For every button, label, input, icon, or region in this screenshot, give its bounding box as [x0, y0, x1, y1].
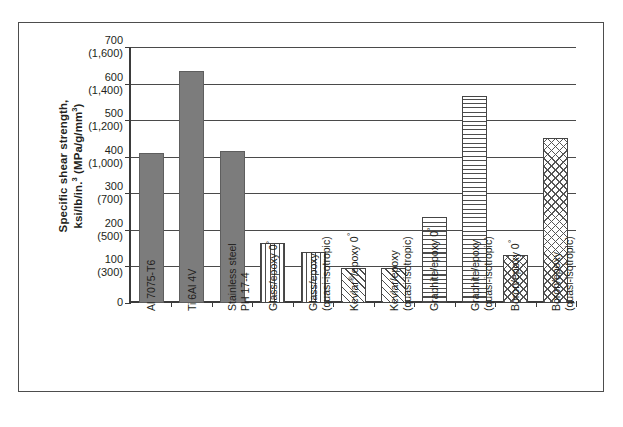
- x-axis-label-line: Kevlar/epoxy: [388, 236, 401, 311]
- x-axis-label-line: Ti 6Al 4V: [186, 269, 199, 311]
- y-tick-label-300: 300(700): [28, 180, 123, 206]
- y-tick-primary: 0: [28, 296, 123, 309]
- x-axis-label: Ti 6Al 4V: [186, 269, 199, 311]
- x-axis-label: Glass/epoxy 0°: [267, 241, 280, 311]
- x-axis-label: Kevlar/epoxy(quasi-isotropic): [388, 236, 414, 311]
- y-tick-label-400: 400(1,000): [28, 144, 123, 170]
- y-tick-label-500: 500(1,200): [28, 107, 123, 133]
- x-axis-label-line: (quasi-isotropic): [563, 236, 576, 311]
- y-tick-0: [125, 303, 131, 304]
- y-tick-primary: 500: [28, 107, 123, 120]
- y-tick-secondary: (1,400): [28, 84, 123, 97]
- x-axis-label-line: Glass/epoxy: [307, 236, 320, 311]
- y-tick-secondary: (1,000): [28, 157, 123, 170]
- x-axis-label-line: Graphite/epoxy: [469, 236, 482, 311]
- y-tick-label-600: 600(1,400): [28, 71, 123, 97]
- y-tick-secondary: (500): [28, 230, 123, 243]
- x-axis-label-line: PH 17-4: [239, 243, 252, 311]
- y-tick-label-0: 0: [28, 296, 123, 309]
- x-axis-label: Graphite/epoxy 0°: [428, 227, 441, 311]
- y-tick-primary: 600: [28, 71, 123, 84]
- caption-strip: [40, 409, 585, 421]
- y-tick-secondary: (1,600): [28, 47, 123, 60]
- x-axis-label: Boron/epoxy 0°: [509, 240, 522, 311]
- x-tick: [414, 301, 415, 307]
- y-tick-secondary: (1,200): [28, 120, 123, 133]
- x-axis-label-line: Glass/epoxy 0°: [267, 241, 280, 311]
- y-tick-primary: 100: [28, 253, 123, 266]
- x-tick: [212, 301, 213, 307]
- x-axis-label: Al 7075-T6: [145, 260, 158, 311]
- x-axis-label: Stainless steelPH 17-4: [226, 243, 252, 311]
- x-tick: [576, 301, 577, 307]
- y-tick-primary: 200: [28, 217, 123, 230]
- x-axis-label-line: (quasi-isotropic): [320, 236, 333, 311]
- x-tick: [495, 301, 496, 307]
- x-axis-label-line: Kevlar®/epoxy 0°: [348, 233, 361, 311]
- y-tick-primary: 300: [28, 180, 123, 193]
- figure-frame: Specific shear strength, ksi/lb/in.3 (MP…: [18, 22, 604, 392]
- x-tick: [293, 301, 294, 307]
- x-axis-label-line: Stainless steel: [226, 243, 239, 311]
- y-tick-secondary: (700): [28, 193, 123, 206]
- x-axis-label: Boron/epoxy(quasi-isotropic): [550, 236, 576, 311]
- x-tick: [536, 301, 537, 307]
- x-axis-label: Graphite/epoxy(quasi-isotropic): [469, 236, 495, 311]
- x-tick: [455, 301, 456, 307]
- x-axis-label-line: (quasi-isotropic): [482, 236, 495, 311]
- x-tick: [333, 301, 334, 307]
- y-tick-label-200: 200(500): [28, 217, 123, 243]
- x-tick: [171, 301, 172, 307]
- x-tick: [374, 301, 375, 307]
- y-tick-primary: 700: [28, 34, 123, 47]
- x-axis-label-line: Boron/epoxy 0°: [509, 240, 522, 311]
- x-axis-label-line: Graphite/epoxy 0°: [428, 227, 441, 311]
- y-tick-primary: 400: [28, 144, 123, 157]
- x-axis-label-line: (quasi-isotropic): [401, 236, 414, 311]
- x-axis-label-line: Boron/epoxy: [550, 236, 563, 311]
- y-tick-label-100: 100(300): [28, 253, 123, 279]
- y-tick-secondary: (300): [28, 266, 123, 279]
- x-axis-label-line: Al 7075-T6: [145, 260, 158, 311]
- x-axis-label: Glass/epoxy(quasi-isotropic): [307, 236, 333, 311]
- x-axis-label: Kevlar®/epoxy 0°: [348, 233, 361, 311]
- x-tick: [252, 301, 253, 307]
- y-tick-label-700: 700(1,600): [28, 34, 123, 60]
